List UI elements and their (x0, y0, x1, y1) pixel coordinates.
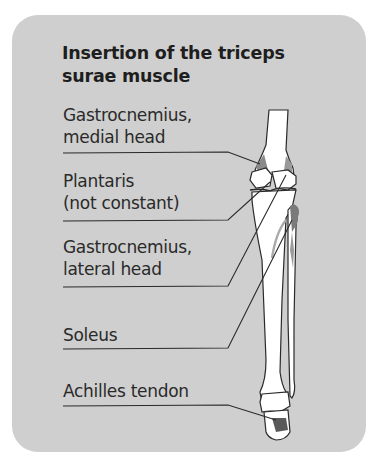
fibula-bone (288, 205, 298, 398)
leader-line-plantaris (63, 182, 270, 221)
talus-bone (260, 392, 290, 412)
leader-line-achilles (63, 405, 276, 420)
leader-line-gastrocnemius-medial (63, 152, 260, 164)
femoral-condyles (250, 168, 272, 188)
leg-bones-illustration (0, 0, 374, 465)
